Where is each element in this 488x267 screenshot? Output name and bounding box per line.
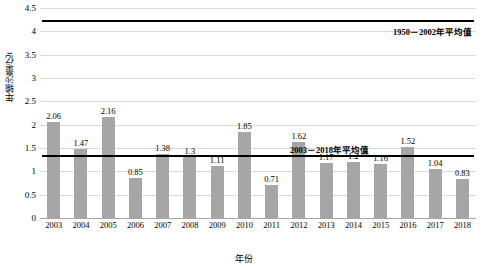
bar-slot: 2.06 [40,8,67,218]
x-axis-tick-label: 2007 [149,220,176,230]
axis-baseline: 0 [40,218,476,219]
bar-slot: 1.16 [367,8,394,218]
x-axis-tick-label: 2016 [394,220,421,230]
bar-value-label: 1.38 [155,143,170,153]
sediment-discharge-bar-chart: 年输沙量/亿t 00.511.522.533.544.5 2.061.472.1… [0,0,488,267]
upper-average-line [42,20,474,22]
x-axis-tick-label: 2005 [95,220,122,230]
plot-area: 00.511.522.533.544.5 2.061.472.160.851.3… [40,8,476,218]
bar-slot: 0.85 [122,8,149,218]
lower-average-line-label: 2003－2018年平均值 [290,143,369,155]
bar[interactable]: 1.04 [429,169,442,218]
x-axis-tick-label: 2011 [258,220,285,230]
bar-slot: 1.85 [231,8,258,218]
x-axis-tick-label: 2012 [285,220,312,230]
y-axis-tick-label: 3.5 [25,50,36,60]
bar[interactable]: 2.06 [47,122,60,218]
bar[interactable]: 1.3 [183,157,196,218]
x-axis-tick-label: 2010 [231,220,258,230]
bar-slot: 0.83 [449,8,476,218]
bar-slot: 1.52 [394,8,421,218]
bar[interactable]: 1.85 [238,132,251,218]
x-axis-tick-label: 2003 [40,220,67,230]
bar[interactable]: 1.2 [347,162,360,218]
y-axis-tick-label: 0.5 [25,190,36,200]
bar-slot: 1.11 [204,8,231,218]
y-axis-tick-label: 0 [32,213,37,223]
y-axis-tick-label: 1.5 [25,143,36,153]
bar-slot: 1.3 [176,8,203,218]
bar-slot: 1.47 [67,8,94,218]
x-axis-tick-label: 2006 [122,220,149,230]
upper-average-line-label: 1950－2002年平均值 [393,25,472,37]
bar-value-label: 0.83 [455,168,470,178]
y-axis-tick-label: 3 [32,73,37,83]
bar[interactable]: 1.16 [374,164,387,218]
bar-slot: 2.16 [95,8,122,218]
x-axis-tick-label: 2013 [313,220,340,230]
x-axis-tick-label: 2014 [340,220,367,230]
bar-value-label: 1.16 [373,153,388,163]
bar[interactable]: 0.85 [129,178,142,218]
bar[interactable]: 0.71 [265,185,278,218]
y-axis-tick-label: 4.5 [25,3,36,13]
bar-value-label: 0.71 [264,174,279,184]
x-axis-tick-labels: 2003200420052006200720082009201020112012… [40,220,476,230]
bar-slot: 1.38 [149,8,176,218]
bar[interactable]: 1.17 [320,163,333,218]
bar[interactable]: 1.11 [211,166,224,218]
bar-value-label: 1.52 [400,136,415,146]
x-axis-tick-label: 2008 [176,220,203,230]
bar[interactable]: 1.47 [74,149,87,218]
x-axis-tick-label: 2018 [449,220,476,230]
x-axis-tick-label: 2015 [367,220,394,230]
x-axis-tick-label: 2009 [204,220,231,230]
bar[interactable]: 0.83 [456,179,469,218]
bar-value-label: 0.85 [128,167,143,177]
bar-slot: 1.2 [340,8,367,218]
x-axis-title: 年份 [0,252,488,265]
y-axis-tick-label: 1 [32,166,37,176]
bar[interactable]: 1.38 [156,154,169,218]
bar-value-label: 2.16 [101,106,116,116]
x-axis-tick-label: 2017 [422,220,449,230]
bar[interactable]: 1.52 [401,147,414,218]
bar-value-label: 1.47 [73,138,88,148]
bar-slot: 0.71 [258,8,285,218]
bar-slot: 1.17 [313,8,340,218]
bar-value-label: 1.85 [237,121,252,131]
bar-series: 2.061.472.160.851.381.31.111.850.711.621… [40,8,476,218]
bar-value-label: 1.62 [291,131,306,141]
bar-slot: 1.04 [422,8,449,218]
y-axis-tick-label: 2 [32,120,37,130]
lower-average-line [42,155,474,157]
y-axis-title: 年输沙量/亿t [2,52,16,102]
x-axis-tick-label: 2004 [67,220,94,230]
bar-value-label: 1.04 [428,158,443,168]
bar-slot: 1.62 [285,8,312,218]
bar[interactable]: 2.16 [102,117,115,218]
bar-value-label: 2.06 [46,111,61,121]
y-axis-tick-label: 2.5 [25,96,36,106]
y-axis-tick-label: 4 [32,26,37,36]
